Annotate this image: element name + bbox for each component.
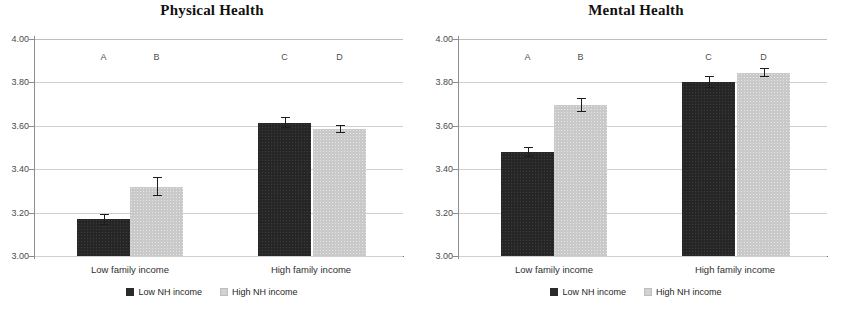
bar-a bbox=[77, 219, 130, 256]
y-axis-tick-label: 3.40 bbox=[423, 164, 453, 174]
legend-item: High NH income bbox=[220, 287, 298, 297]
error-bar-b bbox=[153, 177, 162, 197]
error-bar-c bbox=[281, 117, 290, 128]
y-axis-tick-label: 4.00 bbox=[0, 34, 29, 44]
y-axis-tick-label: 3.00 bbox=[423, 251, 453, 261]
error-bar-cap-upper bbox=[705, 76, 714, 77]
y-axis-tick-label: 3.60 bbox=[423, 121, 453, 131]
bar-annotation-c: C bbox=[699, 52, 719, 62]
error-bar-cap-lower bbox=[577, 111, 586, 112]
bar-b bbox=[554, 105, 607, 256]
bar-annotation-a: A bbox=[518, 52, 538, 62]
bar-annotation-d: D bbox=[754, 52, 774, 62]
y-axis-tick-label: 3.80 bbox=[423, 77, 453, 87]
gridline bbox=[459, 256, 827, 257]
error-bar-cap-upper bbox=[524, 147, 533, 148]
error-bar-cap-upper bbox=[336, 125, 345, 126]
x-axis-category-label: Low family income bbox=[484, 264, 624, 275]
error-bar-cap-upper bbox=[153, 177, 162, 178]
bar-d bbox=[737, 73, 790, 256]
bar-annotation-a: A bbox=[94, 52, 114, 62]
error-bar-d bbox=[336, 125, 345, 133]
bar-c bbox=[682, 82, 735, 256]
y-axis-tick-label: 3.40 bbox=[0, 164, 29, 174]
error-bar-stem bbox=[157, 177, 158, 197]
bar-a bbox=[501, 152, 554, 256]
plot-area: ABCD bbox=[35, 39, 403, 256]
x-axis-category-label: Low family income bbox=[60, 264, 200, 275]
bar-annotation-c: C bbox=[275, 52, 295, 62]
error-bar-stem bbox=[581, 98, 582, 112]
legend-item: High NH income bbox=[644, 287, 722, 297]
gridline bbox=[35, 82, 403, 83]
x-axis-category-label: High family income bbox=[241, 264, 381, 275]
error-bar-c bbox=[705, 76, 714, 88]
chart-title: Mental Health bbox=[424, 2, 848, 19]
legend-label: Low NH income bbox=[138, 287, 202, 297]
legend-label: High NH income bbox=[656, 287, 722, 297]
bar-annotation-d: D bbox=[330, 52, 350, 62]
error-bar-cap-upper bbox=[577, 98, 586, 99]
bar-annotation-b: B bbox=[571, 52, 591, 62]
legend-swatch-dark bbox=[550, 288, 558, 296]
error-bar-cap-upper bbox=[281, 117, 290, 118]
chart-panel-mental-health: Mental Health3.003.203.403.603.804.00ABC… bbox=[424, 0, 848, 312]
error-bar-cap-upper bbox=[100, 214, 109, 215]
bar-b bbox=[130, 187, 183, 256]
y-axis-tick-label: 3.60 bbox=[0, 121, 29, 131]
error-bar-cap-lower bbox=[153, 195, 162, 196]
bar-annotation-b: B bbox=[147, 52, 167, 62]
legend-item: Low NH income bbox=[126, 287, 202, 297]
y-axis-tick-label: 3.80 bbox=[0, 77, 29, 87]
gridline bbox=[35, 126, 403, 127]
legend-swatch-dark bbox=[126, 288, 134, 296]
error-bar-cap-lower bbox=[524, 156, 533, 157]
legend-label: Low NH income bbox=[562, 287, 626, 297]
chart-legend: Low NH incomeHigh NH income bbox=[0, 287, 424, 297]
error-bar-cap-upper bbox=[760, 68, 769, 69]
error-bar-d bbox=[760, 68, 769, 78]
x-axis-category-label: High family income bbox=[665, 264, 805, 275]
legend-swatch-light bbox=[220, 288, 228, 296]
two-panel-bar-chart-figure: Physical Health3.003.203.403.603.804.00A… bbox=[0, 0, 849, 312]
chart-legend: Low NH incomeHigh NH income bbox=[424, 287, 848, 297]
error-bar-b bbox=[577, 98, 586, 112]
bar-c bbox=[258, 123, 311, 256]
plot-area: ABCD bbox=[459, 39, 827, 256]
y-axis-tick-label: 3.20 bbox=[423, 208, 453, 218]
gridline bbox=[35, 256, 403, 257]
error-bar-a bbox=[100, 214, 109, 225]
chart-panel-physical-health: Physical Health3.003.203.403.603.804.00A… bbox=[0, 0, 424, 312]
error-bar-cap-lower bbox=[100, 224, 109, 225]
error-bar-cap-lower bbox=[705, 87, 714, 88]
y-axis-tick-label: 4.00 bbox=[423, 34, 453, 44]
chart-title: Physical Health bbox=[0, 2, 424, 19]
error-bar-cap-lower bbox=[336, 132, 345, 133]
error-bar-a bbox=[524, 147, 533, 157]
gridline bbox=[35, 39, 403, 40]
gridline bbox=[459, 39, 827, 40]
legend-label: High NH income bbox=[232, 287, 298, 297]
y-axis-tick-label: 3.00 bbox=[0, 251, 29, 261]
legend-swatch-light bbox=[644, 288, 652, 296]
legend-item: Low NH income bbox=[550, 287, 626, 297]
y-axis-tick-label: 3.20 bbox=[0, 208, 29, 218]
error-bar-cap-lower bbox=[281, 127, 290, 128]
bar-d bbox=[313, 129, 366, 256]
error-bar-cap-lower bbox=[760, 76, 769, 77]
